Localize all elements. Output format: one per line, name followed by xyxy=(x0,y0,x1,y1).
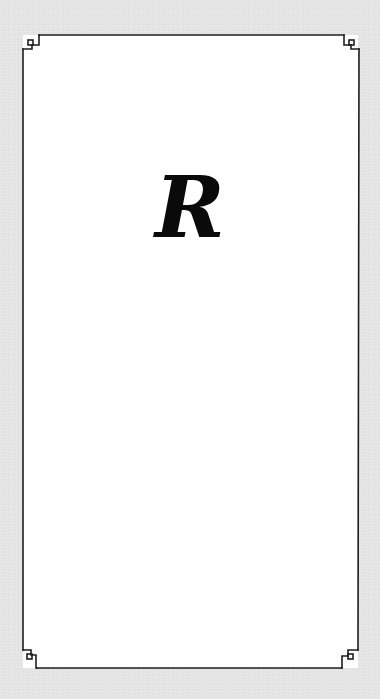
border-right-line xyxy=(358,49,359,650)
card-letter: R xyxy=(0,160,380,256)
corner-ornament-bottom-right-icon xyxy=(342,650,358,668)
corner-ornament-top-left-icon xyxy=(23,35,39,49)
corner-ornament-top-right-icon xyxy=(344,35,359,49)
card-border-frame xyxy=(0,0,380,699)
corner-ornament-bottom-left-icon xyxy=(23,650,37,668)
